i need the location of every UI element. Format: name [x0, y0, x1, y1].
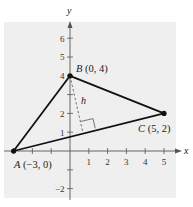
y-tick-label-1: 1	[60, 128, 65, 138]
point-b-label: B (0, 4)	[76, 63, 108, 75]
x-tick-label-1: 1	[87, 157, 92, 167]
altitude-label: h	[81, 95, 86, 106]
y-tick-label-neg2: −2	[55, 184, 65, 194]
point-c-label: C (5, 2)	[138, 123, 171, 135]
coordinate-plane: x y 1 2 3 4 5 −2 1 2 4 5 6 h	[0, 0, 193, 207]
point-b-icon	[67, 73, 72, 78]
y-axis-label: y	[66, 5, 72, 16]
point-a-icon	[11, 148, 16, 153]
point-a-label: A (−3, 0)	[13, 159, 52, 171]
y-tick-label-6: 6	[60, 34, 65, 44]
x-tick-label-4: 4	[143, 157, 148, 167]
x-tick-label-3: 3	[124, 157, 129, 167]
x-axis-label: x	[183, 145, 189, 156]
y-tick-label-2: 2	[60, 109, 65, 119]
x-axis-arrow-icon	[175, 149, 182, 154]
y-tick-label-4: 4	[60, 71, 65, 81]
x-tick-label-5: 5	[162, 157, 167, 167]
grid-background	[4, 22, 176, 198]
y-tick-label-5: 5	[60, 52, 65, 62]
x-tick-label-2: 2	[105, 157, 110, 167]
point-c-icon	[161, 111, 166, 116]
